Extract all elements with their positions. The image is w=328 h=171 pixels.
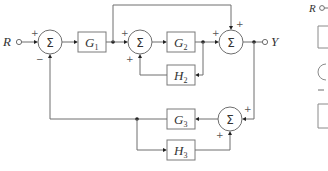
block-h2: H2 [167, 65, 195, 85]
svg-text:+: + [212, 28, 220, 38]
block-g2: G2 [167, 32, 195, 52]
svg-text:+: + [244, 104, 252, 114]
svg-text:+: + [121, 28, 129, 38]
svg-text:+: + [236, 19, 244, 29]
output-label-y: Y [271, 34, 280, 49]
svg-text:+: + [126, 54, 134, 64]
svg-text:R: R [308, 2, 316, 14]
summer-3: Σ + + [212, 19, 244, 54]
block-h3: H3 [167, 140, 195, 160]
svg-text:Σ: Σ [226, 113, 234, 127]
partial-next-figure: R [308, 2, 328, 128]
svg-text:+: + [216, 130, 224, 140]
summer-2: Σ + + [121, 28, 152, 64]
summer-1: Σ + − [31, 28, 62, 64]
svg-text:Σ: Σ [227, 36, 235, 50]
block-g3: G3 [167, 109, 195, 129]
block-diagram: R Σ + − G1 Σ + + G2 H2 [0, 0, 328, 171]
sign-plus: + [31, 28, 39, 38]
sigma-symbol: Σ [46, 36, 54, 50]
input-label-r: R [2, 34, 11, 49]
sign-minus: − [36, 54, 44, 64]
summer-4: Σ + + [216, 104, 252, 140]
block-g1: G1 [78, 32, 106, 52]
output-terminal [262, 39, 267, 44]
input-terminal [16, 39, 21, 44]
svg-text:Σ: Σ [136, 36, 144, 50]
